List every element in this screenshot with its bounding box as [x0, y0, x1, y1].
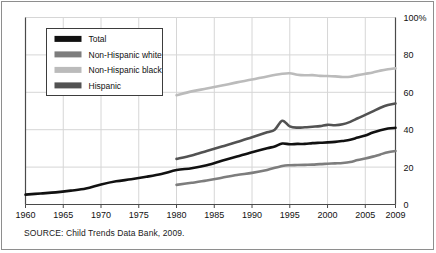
x-tick-label: 2009: [385, 210, 405, 220]
y-tick-label: 100%: [404, 13, 427, 23]
chart-plot-container: 020406080100% 19601965197019751980198519…: [0, 0, 436, 219]
legend-label: Total: [89, 34, 107, 44]
chart-figure: 020406080100% 19601965197019751980198519…: [0, 0, 436, 253]
y-tick-label: 60: [404, 88, 414, 98]
y-tick-label: 80: [404, 50, 414, 60]
source-note: SOURCE: Child Trends Data Bank, 2009.: [24, 228, 185, 238]
y-tick-label: 20: [404, 163, 414, 173]
x-tick-label: 1975: [129, 210, 149, 220]
x-tick-label: 1965: [53, 210, 73, 220]
y-axis-tick-labels: 020406080100%: [404, 13, 427, 210]
legend-swatch: [55, 82, 82, 88]
x-tick-label: 1970: [91, 210, 111, 220]
y-tick-label: 40: [404, 125, 414, 135]
series-line: [177, 104, 396, 159]
series-line: [26, 128, 396, 195]
x-tick-label: 1990: [242, 210, 262, 220]
y-tick-label: 0: [404, 200, 409, 210]
line-chart: 020406080100% 19601965197019751980198519…: [0, 0, 436, 219]
legend-label: Non-Hispanic white: [89, 50, 162, 60]
legend-label: Hispanic: [89, 81, 122, 91]
x-tick-label: 2005: [355, 210, 375, 220]
legend-swatch: [55, 36, 82, 42]
x-tick-label: 1960: [15, 210, 35, 220]
series-line: [177, 151, 396, 185]
x-axis-tick-labels: 1960196519701975198019851990199520002005…: [15, 210, 405, 220]
x-tick-label: 2000: [318, 210, 338, 220]
x-tick-label: 1995: [280, 210, 300, 220]
series-line: [177, 68, 396, 95]
x-tick-label: 1985: [204, 210, 224, 220]
legend-swatch: [55, 51, 82, 57]
chart-legend: TotalNon-Hispanic whiteNon-Hispanic blac…: [47, 29, 163, 96]
legend-label: Non-Hispanic black: [89, 65, 163, 75]
legend-swatch: [55, 67, 82, 73]
x-tick-label: 1980: [167, 210, 187, 220]
